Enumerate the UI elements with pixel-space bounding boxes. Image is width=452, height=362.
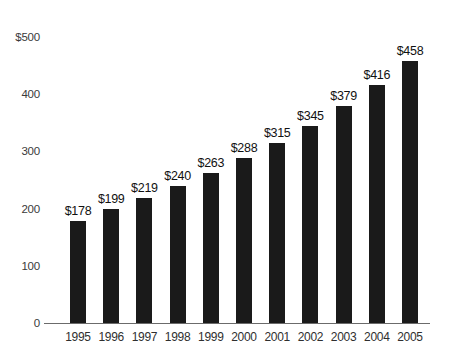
bar (402, 61, 418, 323)
bar (236, 158, 252, 323)
bar-value-label: $288 (219, 141, 269, 155)
x-axis-baseline (45, 323, 430, 324)
bar (136, 198, 152, 323)
bar (170, 186, 186, 323)
bar-value-label: $219 (119, 181, 169, 195)
y-axis-tick-label: 100 (0, 260, 40, 272)
y-axis-tick-label: 300 (0, 145, 40, 157)
bar-chart: 0100200300400$500 $1781995$1991996$21919… (0, 0, 452, 362)
plot-area: $1781995$1991996$2191997$2401998$2631999… (45, 0, 430, 362)
y-axis-tick-label: 200 (0, 203, 40, 215)
bar-value-label: $458 (385, 44, 435, 58)
y-axis-tick-label: 400 (0, 88, 40, 100)
bar (203, 173, 219, 323)
bar-value-label: $416 (352, 68, 402, 82)
bar (302, 126, 318, 323)
bar (336, 106, 352, 323)
bar (369, 85, 385, 323)
bar-value-label: $345 (285, 109, 335, 123)
bar-value-label: $178 (53, 204, 103, 218)
y-axis-tick-label: 0 (0, 317, 40, 329)
bar (70, 221, 86, 323)
bar-value-label: $379 (319, 89, 369, 103)
x-axis-tick-label: 2005 (385, 330, 435, 344)
bar-value-label: $240 (153, 169, 203, 183)
y-axis: 0100200300400$500 (0, 0, 40, 362)
bar-value-label: $315 (252, 126, 302, 140)
y-axis-zero-tick (44, 323, 52, 324)
y-axis-tick-label: $500 (0, 31, 40, 43)
bar (103, 209, 119, 323)
bar-value-label: $263 (186, 156, 236, 170)
bar (269, 143, 285, 323)
